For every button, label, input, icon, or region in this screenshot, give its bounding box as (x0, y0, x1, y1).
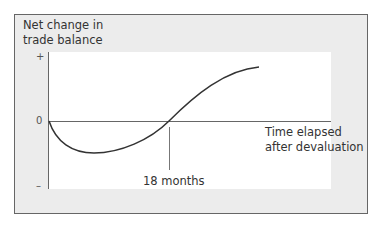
marker-label-18-months: 18 months (143, 174, 205, 188)
chart-svg (0, 0, 386, 225)
x-axis-label: Time elapsed after devaluation (265, 125, 364, 155)
x-axis-label-line1: Time elapsed (265, 125, 364, 140)
x-axis-label-line2: after devaluation (265, 140, 364, 155)
j-curve-line (49, 67, 259, 153)
